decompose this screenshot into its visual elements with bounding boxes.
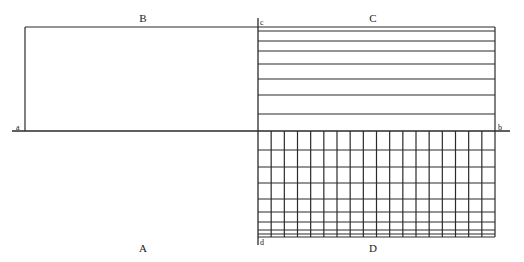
label-D: D — [369, 242, 377, 254]
label-d: d — [260, 238, 264, 247]
diagram-canvas: B C c a b d A D — [0, 0, 524, 262]
label-b: b — [498, 123, 502, 132]
label-c: c — [260, 18, 264, 27]
label-a: a — [16, 123, 20, 132]
label-B: B — [139, 12, 146, 24]
label-A: A — [139, 242, 147, 254]
label-C: C — [369, 12, 376, 24]
diagram-lines — [12, 18, 510, 245]
